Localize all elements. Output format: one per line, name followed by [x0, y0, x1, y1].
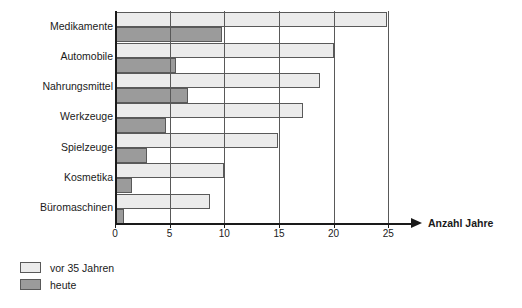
- x-tick-label: 25: [373, 228, 403, 239]
- x-tick-label: 20: [319, 228, 349, 239]
- x-tick-label: 0: [100, 228, 130, 239]
- category-label: Werkzeuge: [0, 110, 113, 122]
- y-axis-line: [115, 11, 117, 224]
- gridline: [334, 11, 335, 224]
- legend-label: vor 35 Jahren: [50, 262, 114, 274]
- x-tick-label: 15: [264, 228, 294, 239]
- bar: [115, 118, 166, 133]
- legend: vor 35 Jahren heute: [20, 259, 114, 293]
- category-label: Nahrungsmittel: [0, 80, 113, 92]
- bar: [115, 58, 176, 73]
- bar: [115, 194, 210, 209]
- x-axis-title: Anzahl Jahre: [428, 217, 493, 229]
- category-label: Büromaschinen: [0, 201, 113, 213]
- x-tick-label: 10: [209, 228, 239, 239]
- legend-item: vor 35 Jahren: [20, 259, 114, 276]
- category-label: Spielzeuge: [0, 141, 113, 153]
- bar: [115, 133, 278, 148]
- plot-area: [115, 11, 421, 224]
- bar: [115, 103, 303, 118]
- bar: [115, 12, 387, 27]
- category-label: Automobile: [0, 50, 113, 62]
- gridline: [224, 11, 225, 224]
- category-label: Kosmetika: [0, 171, 113, 183]
- bar: [115, 88, 188, 103]
- bar-chart: Medikamente Automobile Nahrungsmittel We…: [0, 0, 522, 308]
- x-axis-line: [115, 223, 413, 225]
- bar: [115, 73, 320, 88]
- gridline: [279, 11, 280, 224]
- legend-label: heute: [50, 279, 76, 291]
- legend-swatch-icon: [20, 279, 41, 290]
- category-label: Medikamente: [0, 20, 113, 32]
- bar: [115, 27, 222, 42]
- legend-item: heute: [20, 276, 114, 293]
- gridline: [170, 11, 171, 224]
- x-tick-label: 5: [155, 228, 185, 239]
- bar: [115, 148, 147, 163]
- x-axis-arrow-icon: [411, 218, 422, 228]
- bar: [115, 178, 132, 193]
- legend-swatch-icon: [20, 262, 41, 273]
- gridline: [388, 11, 389, 224]
